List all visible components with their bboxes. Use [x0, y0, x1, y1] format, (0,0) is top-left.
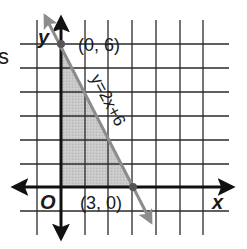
point-label-3-0: (3, 0) — [80, 193, 122, 213]
origin-label: O — [40, 191, 56, 213]
point-label-0-6: (0, 6) — [78, 35, 120, 55]
x-axis-label: x — [211, 191, 224, 213]
y-axis-label: y — [37, 26, 50, 48]
coordinate-graph: s y x O (0, 6) (3, 0) y=2x+6 — [0, 0, 247, 249]
graph-canvas: s y x O (0, 6) (3, 0) y=2x+6 — [0, 0, 247, 249]
stray-text: s — [0, 44, 9, 69]
point-0-6 — [57, 40, 65, 48]
point-3-0 — [129, 183, 137, 191]
